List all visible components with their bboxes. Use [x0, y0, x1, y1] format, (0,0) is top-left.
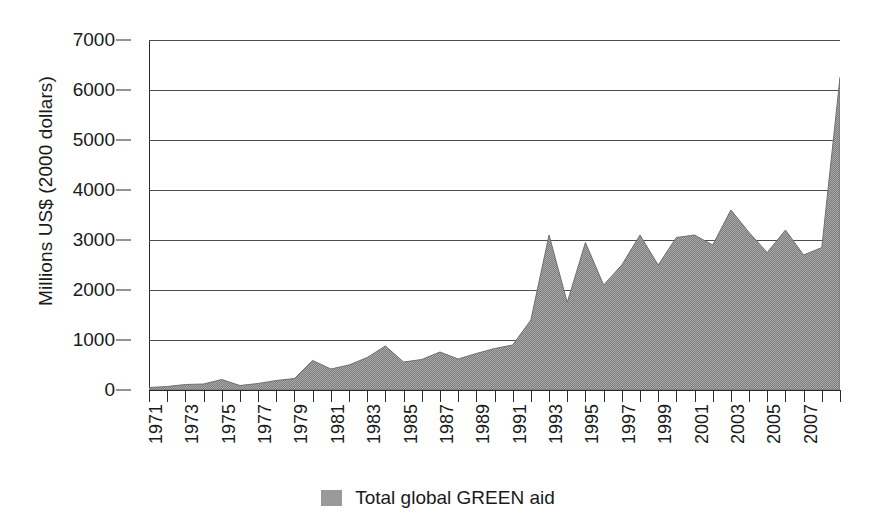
- x-tick-label-1997: 1997: [618, 404, 639, 444]
- x-tick-2005: [767, 391, 768, 402]
- y-tick-mark-5000: [116, 140, 131, 141]
- x-axis-ticks: [149, 391, 841, 403]
- x-tick-1989: [476, 391, 477, 402]
- x-tick-2007: [804, 391, 805, 402]
- x-tick-2000: [676, 391, 677, 402]
- x-tick-2004: [749, 391, 750, 402]
- x-tick-label-2001: 2001: [691, 404, 712, 444]
- x-tick-label-1993: 1993: [546, 404, 567, 444]
- x-tick-1982: [349, 391, 350, 402]
- x-tick-2002: [713, 391, 714, 402]
- y-tick-mark-4000: [116, 190, 131, 191]
- x-tick-1996: [604, 391, 605, 402]
- y-tick-label-0: 0: [104, 379, 115, 401]
- y-tick-label-6000: 6000: [73, 79, 115, 101]
- x-tick-1976: [240, 391, 241, 402]
- x-tick-1993: [549, 391, 550, 402]
- y-tick-mark-6000: [116, 90, 131, 91]
- x-tick-1980: [313, 391, 314, 402]
- chart-figure: Millions US$ (2000 dollars) 700060005000…: [0, 0, 876, 529]
- y-tick-label-2000: 2000: [73, 279, 115, 301]
- x-tick-label-1987: 1987: [436, 404, 457, 444]
- y-tick-mark-0: [116, 390, 131, 391]
- x-tick-1997: [622, 391, 623, 402]
- x-tick-1988: [458, 391, 459, 402]
- x-tick-1971: [149, 391, 150, 402]
- x-tick-label-1999: 1999: [655, 404, 676, 444]
- x-tick-label-1981: 1981: [327, 404, 348, 444]
- x-tick-1995: [585, 391, 586, 402]
- legend-swatch-icon: [321, 490, 342, 506]
- x-tick-1991: [513, 391, 514, 402]
- chart-legend: Total global GREEN aid: [0, 487, 876, 509]
- x-tick-1979: [294, 391, 295, 402]
- x-tick-2003: [731, 391, 732, 402]
- x-tick-1984: [385, 391, 386, 402]
- x-tick-2008: [822, 391, 823, 402]
- x-tick-label-2007: 2007: [800, 404, 821, 444]
- y-tick-label-1000: 1000: [73, 329, 115, 351]
- y-axis-ticks: 70006000500040003000200010000: [0, 40, 149, 390]
- x-tick-label-1977: 1977: [255, 404, 276, 444]
- x-tick-2001: [695, 391, 696, 402]
- y-tick-mark-7000: [116, 40, 131, 41]
- x-tick-1983: [367, 391, 368, 402]
- x-tick-1978: [276, 391, 277, 402]
- x-tick-label-1989: 1989: [473, 404, 494, 444]
- x-tick-label-1973: 1973: [182, 404, 203, 444]
- x-tick-1985: [404, 391, 405, 402]
- y-tick-mark-3000: [116, 240, 131, 241]
- x-tick-label-1985: 1985: [400, 404, 421, 444]
- x-tick-1974: [204, 391, 205, 402]
- x-tick-1975: [222, 391, 223, 402]
- x-tick-2009: [840, 391, 841, 402]
- x-tick-1981: [331, 391, 332, 402]
- x-tick-1992: [531, 391, 532, 402]
- x-tick-1998: [640, 391, 641, 402]
- x-tick-label-1979: 1979: [291, 404, 312, 444]
- y-tick-mark-2000: [116, 290, 131, 291]
- x-tick-label-1975: 1975: [218, 404, 239, 444]
- x-tick-1977: [258, 391, 259, 402]
- x-tick-1999: [658, 391, 659, 402]
- area-series-total-global-green-aid: [149, 40, 840, 390]
- x-tick-2006: [785, 391, 786, 402]
- x-tick-1990: [495, 391, 496, 402]
- x-tick-label-2003: 2003: [727, 404, 748, 444]
- x-tick-label-1991: 1991: [509, 404, 530, 444]
- x-tick-1972: [167, 391, 168, 402]
- y-tick-label-5000: 5000: [73, 129, 115, 151]
- x-tick-1994: [567, 391, 568, 402]
- x-tick-label-1995: 1995: [582, 404, 603, 444]
- y-tick-mark-1000: [116, 340, 131, 341]
- x-tick-1987: [440, 391, 441, 402]
- x-tick-label-2005: 2005: [764, 404, 785, 444]
- legend-label: Total global GREEN aid: [355, 487, 555, 509]
- x-tick-1986: [422, 391, 423, 402]
- y-tick-label-4000: 4000: [73, 179, 115, 201]
- y-tick-label-7000: 7000: [73, 29, 115, 51]
- y-tick-label-3000: 3000: [73, 229, 115, 251]
- x-tick-label-1983: 1983: [364, 404, 385, 444]
- x-tick-1973: [185, 391, 186, 402]
- x-axis-tick-labels: 1971197319751977197919811983198519871989…: [149, 404, 841, 484]
- x-tick-label-1971: 1971: [146, 404, 167, 444]
- plot-area: [149, 40, 840, 390]
